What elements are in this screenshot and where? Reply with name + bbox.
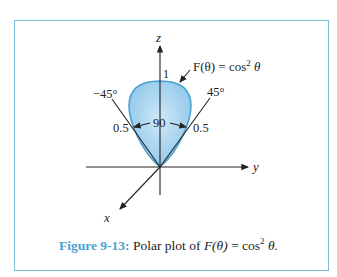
z-axis-label: z bbox=[155, 30, 161, 45]
x-axis-label: x bbox=[103, 210, 110, 225]
caption-math-lhs: F(θ) bbox=[204, 238, 228, 253]
caption-math-eq: = cos bbox=[228, 238, 260, 253]
minus-45-label: −45° bbox=[93, 87, 118, 101]
figure-caption: Figure 9-13: Polar plot of F(θ) = cos2 θ… bbox=[0, 236, 337, 254]
function-pointer-arrow bbox=[180, 70, 190, 82]
function-label: F(θ) = cos2 θ bbox=[193, 58, 261, 74]
caption-math-tail: θ. bbox=[265, 238, 278, 253]
tick-one-label: 1 bbox=[163, 67, 169, 81]
half-power-right-label: 0.5 bbox=[193, 121, 209, 135]
figure-number: Figure 9-13: bbox=[59, 238, 130, 253]
half-power-left-label: 0.5 bbox=[113, 121, 129, 135]
beamwidth-label: 90 bbox=[153, 116, 166, 130]
caption-text: Polar plot of bbox=[133, 238, 201, 253]
y-axis-label: y bbox=[251, 159, 259, 174]
x-axis bbox=[120, 167, 160, 209]
plus-45-label: 45° bbox=[207, 85, 225, 99]
